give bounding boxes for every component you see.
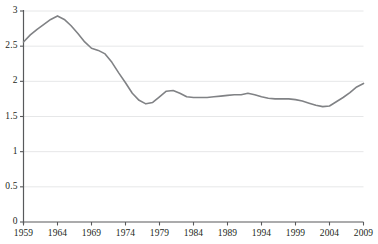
data-series-line — [24, 16, 364, 107]
y-axis-tick-label: 0 — [0, 217, 18, 227]
x-axis-tick-label: 2009 — [344, 229, 378, 239]
y-axis-tick-label: 1.5 — [0, 112, 18, 122]
y-axis-tick-label: 2 — [0, 76, 18, 86]
y-axis-tick-label: 1 — [0, 147, 18, 157]
y-axis-tick-label: 3 — [0, 6, 18, 16]
y-axis-tick-label: 2.5 — [0, 41, 18, 51]
y-axis-tick-label: 0.5 — [0, 182, 18, 192]
